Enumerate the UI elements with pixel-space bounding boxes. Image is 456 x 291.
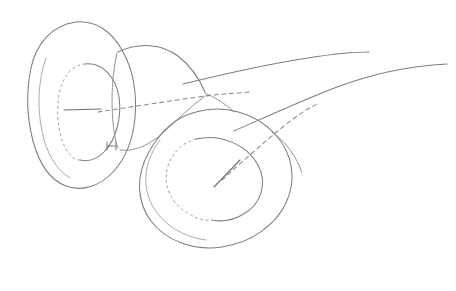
right-funnel-outer-rim	[139, 109, 292, 248]
left-funnel-wall-shading	[39, 58, 70, 178]
throat-seam-bracket	[107, 142, 116, 150]
sketch-canvas	[0, 0, 456, 291]
left-funnel-throat-hidden	[58, 64, 85, 160]
wormhole-diagram	[0, 0, 456, 291]
right-funnel-throat-front	[196, 138, 263, 221]
left-hidden-axis	[98, 92, 250, 112]
throat-top-edge	[118, 46, 205, 92]
hidden-axes	[98, 92, 318, 180]
right-funnel-throat-hidden	[166, 139, 212, 220]
left-funnel-axis-tick	[64, 109, 101, 110]
left-funnel	[28, 22, 136, 189]
right-funnel-axis-tick	[214, 160, 240, 187]
wormhole-throat	[107, 46, 234, 151]
sheet-curve-lower	[234, 64, 447, 131]
right-funnel	[139, 109, 302, 248]
sheet-curve-upper	[183, 52, 369, 84]
embedding-sheet-curves	[183, 52, 447, 131]
throat-bottom-edge	[120, 96, 205, 150]
